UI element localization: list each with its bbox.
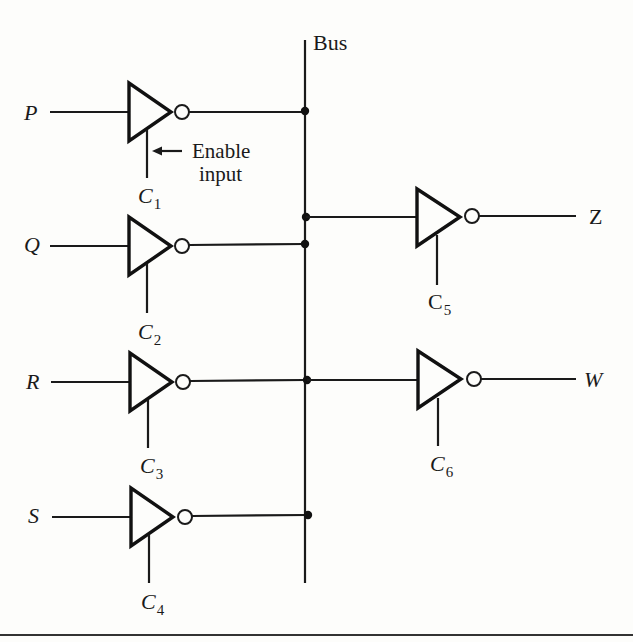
- enable-label-c5: C5: [428, 289, 451, 318]
- enable-label-c1: C1: [138, 183, 161, 212]
- input-label-q: Q: [24, 232, 40, 257]
- input-buffer-p: P C1: [23, 83, 309, 212]
- inversion-bubble-icon: [178, 510, 192, 524]
- junction-dot: [301, 107, 309, 115]
- enable-label-c4: C4: [141, 589, 165, 618]
- input-buffer-r: R C3: [25, 353, 311, 482]
- input-label-s: S: [28, 503, 39, 528]
- buffer-triangle-icon: [129, 217, 171, 275]
- output-label-w: W: [584, 367, 604, 392]
- enable-label-c3: C3: [140, 453, 163, 482]
- output-wire-s: [192, 515, 307, 516]
- input-label-p: P: [23, 100, 37, 125]
- buffer-triangle-icon: [130, 353, 172, 411]
- enable-input-annotation: Enable input: [152, 139, 250, 186]
- enable-label-c6: C6: [430, 451, 454, 480]
- output-wire-q: [189, 244, 305, 245]
- buffer-triangle-icon: [129, 83, 171, 141]
- output-label-z: Z: [589, 204, 602, 229]
- inversion-bubble-icon: [467, 372, 481, 386]
- inversion-bubble-icon: [465, 209, 479, 223]
- inversion-bubble-icon: [175, 239, 189, 253]
- bus: Bus: [305, 30, 347, 583]
- annotation-line-2: input: [199, 162, 242, 186]
- input-buffer-q: Q C2: [24, 217, 309, 348]
- input-buffer-s: S C4: [28, 488, 312, 618]
- junction-dot: [301, 240, 309, 248]
- tristate-bus-diagram: Bus P C1 Enable input Q C2 R: [0, 0, 633, 642]
- buffer-triangle-icon: [417, 189, 460, 246]
- bus-label: Bus: [313, 30, 347, 55]
- inversion-bubble-icon: [175, 105, 189, 119]
- output-buffer-z: Z C5: [302, 189, 603, 318]
- enable-label-c2: C2: [138, 319, 161, 348]
- output-buffer-w: W C6: [307, 351, 604, 480]
- buffer-triangle-icon: [131, 488, 173, 546]
- junction-dot: [304, 511, 312, 519]
- annotation-line-1: Enable: [192, 139, 250, 163]
- buffer-triangle-icon: [418, 351, 461, 408]
- output-wire-r: [190, 380, 305, 381]
- inversion-bubble-icon: [176, 375, 190, 389]
- left-arrow-icon: [152, 147, 162, 156]
- input-label-r: R: [25, 369, 40, 394]
